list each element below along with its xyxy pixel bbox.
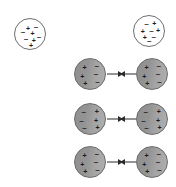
positive-charge-symbol: + [142,160,146,167]
negative-charge-symbol: – [95,166,99,174]
polar-atom-row3-right: +–+–+– [136,146,168,178]
polar-atom-row3-left: +–+–+– [74,146,106,178]
positive-charge-symbol: + [145,168,149,175]
positive-charge-symbol: + [144,152,148,159]
positive-charge-symbol: + [82,152,86,159]
polar-pair-row-3: +–+–+–+–+–+– [0,0,176,187]
arrow-head-icon [120,159,125,165]
arrow-shaft [124,162,136,163]
diagram-canvas: +––+–++––++–+–+–+–+–+–+–+–+––+–+–+–+–+–+… [0,0,176,187]
positive-charge-symbol: + [80,160,84,167]
positive-charge-symbol: + [83,168,87,175]
negative-charge-symbol: – [157,166,161,174]
